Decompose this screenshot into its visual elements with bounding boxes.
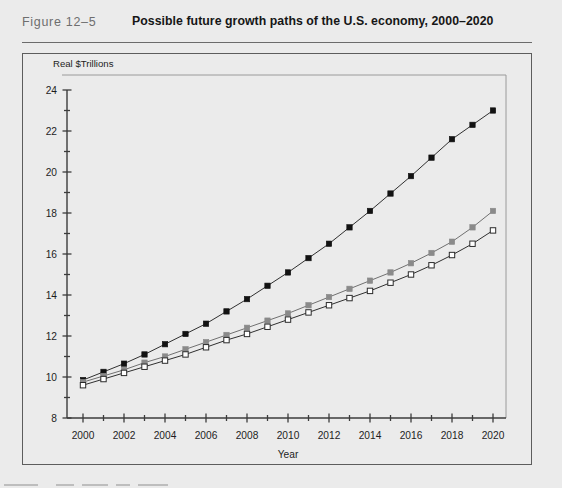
figure-number-label: Figure 12–5 xyxy=(22,15,96,29)
figure-header: Figure 12–5 Possible future growth paths… xyxy=(22,14,532,40)
header-divider xyxy=(22,42,532,43)
figure-title: Possible future growth paths of the U.S.… xyxy=(132,14,493,28)
figure-page: Figure 12–5 Possible future growth paths… xyxy=(0,0,562,488)
figure-panel xyxy=(22,53,532,465)
page-bottom-fragment xyxy=(4,481,214,488)
